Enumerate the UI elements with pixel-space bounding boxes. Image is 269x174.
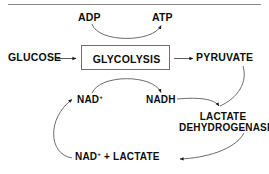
node-glycolysis: GLYCOLYSIS xyxy=(82,46,171,71)
ldh-line-1: LACTATE xyxy=(179,112,267,123)
arc-pyruvate-to-ldh xyxy=(220,66,244,106)
node-adp: ADP xyxy=(78,12,101,23)
arc-bottom-to-nadplus xyxy=(54,100,72,159)
ldh-line-2: DEHYDROGENASE xyxy=(179,123,267,134)
node-nad-plus: NAD+ xyxy=(77,95,103,106)
arc-nadh-to-ldh xyxy=(177,98,219,106)
pathway-arrows xyxy=(0,0,269,174)
node-glucose: GLUCOSE xyxy=(8,52,61,63)
node-nad-plus-base: NAD xyxy=(77,94,99,105)
node-lactate-dehydrogenase: LACTATEDEHYDROGENASE xyxy=(179,112,267,133)
node-atp: ATP xyxy=(152,12,173,23)
node-nad-plus-lactate: NAD+ + LACTATE xyxy=(75,152,160,163)
glycolysis-box: GLYCOLYSIS xyxy=(81,45,170,70)
bottom-nad-base: NAD xyxy=(75,151,97,162)
node-nadh: NADH xyxy=(146,95,176,106)
node-pyruvate: PYRUVATE xyxy=(196,52,253,63)
bottom-lactate-text: + LACTATE xyxy=(101,151,160,162)
arc-ldh-to-bottom xyxy=(180,133,244,159)
arc-nadplus-to-nadh xyxy=(92,79,161,93)
arc-adp-to-atp xyxy=(92,24,161,38)
diagram-canvas: GLUCOSE ADP ATP GLYCOLYSIS PYRUVATE NAD+… xyxy=(0,0,269,174)
node-nad-plus-charge: + xyxy=(99,93,103,100)
